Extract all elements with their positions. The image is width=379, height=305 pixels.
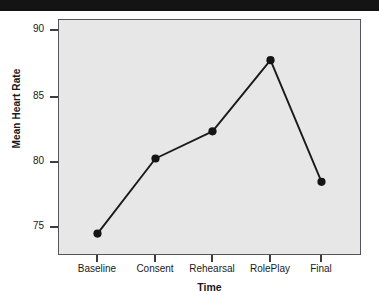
- y-tick-label-90: 90: [10, 23, 44, 34]
- data-point-final: [317, 178, 325, 186]
- chart-figure: Mean Heart Rate 90 85 80 75 Baseline Con…: [0, 0, 379, 305]
- scan-artifact-strip: [0, 0, 379, 11]
- data-point-consent: [151, 154, 159, 162]
- x-axis: Baseline Consent Rehearsal RolePlay Fina…: [58, 255, 361, 279]
- series-line-mean-heart-rate: [98, 60, 322, 233]
- y-tick-label-80: 80: [10, 155, 44, 166]
- y-axis-title: Mean Heart Rate: [11, 49, 22, 169]
- data-point-rehearsal: [208, 127, 216, 135]
- plot-inner: [59, 20, 360, 254]
- y-tick-label-75: 75: [10, 220, 44, 231]
- series-markers: [93, 56, 325, 238]
- x-axis-title: Time: [58, 281, 361, 293]
- data-point-roleplay: [266, 56, 274, 64]
- y-tick-mark-80: [50, 161, 58, 163]
- x-tick-label-final: Final: [276, 263, 366, 274]
- y-axis: Mean Heart Rate 90 85 80 75: [0, 19, 58, 255]
- plot-area: [58, 19, 361, 255]
- data-point-baseline: [93, 229, 101, 237]
- x-tick-mark-rehearsal: [211, 255, 213, 262]
- x-tick-mark-final: [320, 255, 322, 262]
- x-tick-mark-consent: [154, 255, 156, 262]
- x-tick-mark-roleplay: [269, 255, 271, 262]
- x-tick-mark-baseline: [96, 255, 98, 262]
- line-series-layer: [59, 20, 359, 253]
- y-tick-mark-85: [50, 96, 58, 98]
- y-tick-mark-75: [50, 226, 58, 228]
- y-tick-label-85: 85: [10, 90, 44, 101]
- y-tick-mark-90: [50, 29, 58, 31]
